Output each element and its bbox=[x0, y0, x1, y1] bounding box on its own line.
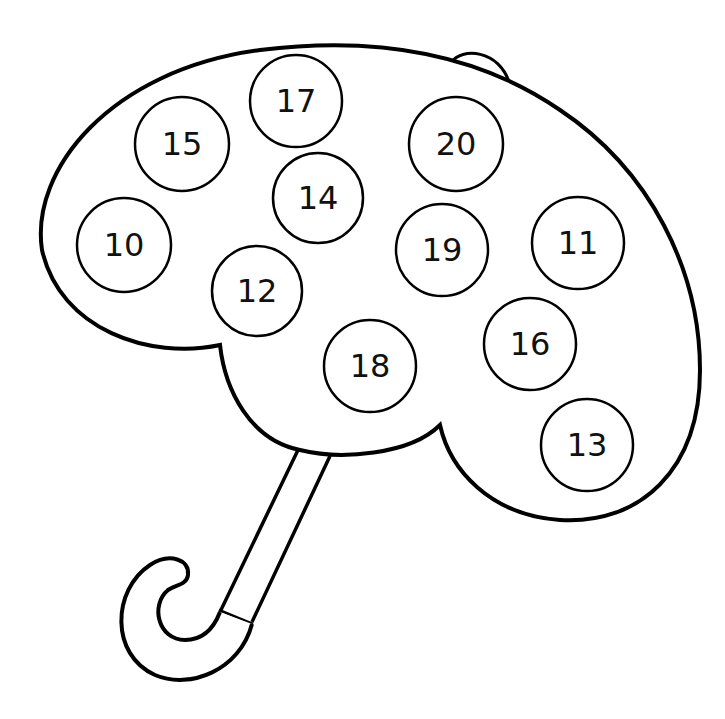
circle-number: 19 bbox=[422, 231, 463, 269]
circle-number: 10 bbox=[104, 226, 145, 264]
number-circle: 20 bbox=[409, 97, 503, 191]
circle-number: 14 bbox=[298, 179, 339, 217]
umbrella-hook bbox=[121, 558, 252, 679]
number-circle: 10 bbox=[77, 198, 171, 292]
circle-number: 15 bbox=[162, 125, 203, 163]
circle-number: 18 bbox=[350, 347, 391, 385]
circle-number: 12 bbox=[237, 272, 278, 310]
umbrella-shaft bbox=[220, 450, 330, 622]
circle-number: 16 bbox=[510, 325, 551, 363]
number-circle: 14 bbox=[273, 153, 363, 243]
number-circle: 12 bbox=[212, 246, 302, 336]
number-circle: 13 bbox=[541, 399, 633, 491]
number-circle: 16 bbox=[484, 298, 576, 390]
umbrella-worksheet: 1715201410191112181613 bbox=[0, 0, 725, 719]
circle-number: 17 bbox=[276, 82, 317, 120]
umbrella-drawing: 1715201410191112181613 bbox=[0, 0, 725, 719]
number-circle: 18 bbox=[324, 320, 416, 412]
number-circle: 11 bbox=[532, 197, 624, 289]
circle-number: 20 bbox=[436, 125, 477, 163]
number-circle: 15 bbox=[135, 97, 229, 191]
number-circle: 19 bbox=[396, 204, 488, 296]
circle-number: 11 bbox=[558, 224, 599, 262]
number-circle: 17 bbox=[250, 55, 342, 147]
circle-number: 13 bbox=[567, 426, 608, 464]
